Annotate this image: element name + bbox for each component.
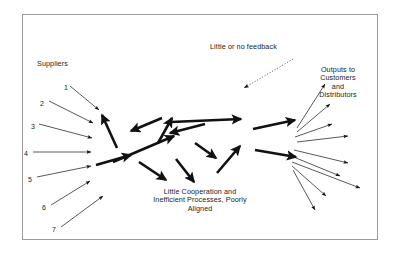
output-arrow-6	[296, 158, 340, 176]
supplier-number-7: 7	[52, 226, 56, 233]
supplier-arrow-7	[61, 196, 103, 227]
supplier-number-3: 3	[31, 123, 35, 130]
process-arrow-4	[113, 136, 174, 162]
output-arrow-5	[294, 150, 348, 163]
center-caption-label: Little Cooperation and Inefficient Proce…	[153, 188, 246, 213]
outputs-label: Outputs to Customers and Distributors	[319, 66, 357, 100]
diagram-canvas	[0, 0, 400, 257]
process-arrow-12	[253, 120, 295, 129]
feedback-label: Little or no feedback	[210, 43, 277, 51]
suppliers-label: Suppliers	[37, 60, 68, 68]
process-arrow-11	[217, 146, 240, 173]
supplier-arrow-3	[39, 124, 92, 138]
figure-root: Suppliers Little or no feedback Outputs …	[0, 0, 400, 257]
supplier-arrow-2	[49, 101, 93, 123]
disordered-process-arrows	[96, 115, 296, 182]
supplier-number-1: 1	[64, 84, 68, 91]
process-arrow-2	[131, 118, 162, 131]
feedback-arrow-line-1	[244, 59, 293, 88]
output-arrow-4	[297, 136, 348, 142]
process-arrow-6	[170, 124, 205, 133]
process-arrow-9	[176, 159, 194, 182]
supplier-number-5: 5	[28, 176, 32, 183]
feedback-arrow	[244, 59, 293, 88]
output-arrow-8	[292, 166, 326, 196]
process-arrow-7	[171, 119, 241, 122]
output-arrow-9	[293, 170, 315, 210]
process-arrow-8	[139, 162, 166, 180]
supplier-arrow-5	[37, 166, 91, 177]
supplier-number-2: 2	[40, 100, 44, 107]
supplier-arrow-6	[51, 181, 90, 205]
supplier-arrow-1	[70, 86, 99, 110]
output-arrow-3	[295, 124, 332, 137]
output-arrow-2	[297, 104, 330, 132]
customer-output-arrows	[292, 84, 360, 210]
process-arrow-1	[102, 115, 117, 148]
process-arrow-10	[195, 143, 216, 158]
supplier-number-6: 6	[42, 204, 46, 211]
supplier-number-4: 4	[24, 150, 28, 157]
process-arrow-13	[255, 150, 296, 157]
